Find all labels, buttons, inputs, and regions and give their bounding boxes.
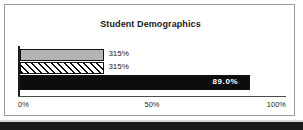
chart-screenshot: Student Demographics 315% 315% 89.0% 0% …	[0, 0, 303, 130]
data-label-series-1: 315%	[108, 49, 128, 59]
x-tick-label-50: 50%	[144, 100, 159, 109]
x-tick-label-0: 0%	[18, 100, 29, 109]
x-tick-label-100: 100%	[267, 100, 286, 109]
bottom-band	[0, 122, 303, 130]
chart-title: Student Demographics	[5, 19, 296, 29]
bar-series-1	[20, 49, 104, 61]
data-label-series-2: 315%	[108, 62, 128, 72]
bar-series-2	[20, 62, 104, 74]
data-label-series-3: 89.0%	[212, 77, 238, 87]
plot-area: 315% 315% 89.0% 0% 50% 100%	[18, 46, 286, 96]
chart-frame: Student Demographics 315% 315% 89.0% 0% …	[4, 4, 295, 116]
value-axis-line	[18, 96, 286, 97]
